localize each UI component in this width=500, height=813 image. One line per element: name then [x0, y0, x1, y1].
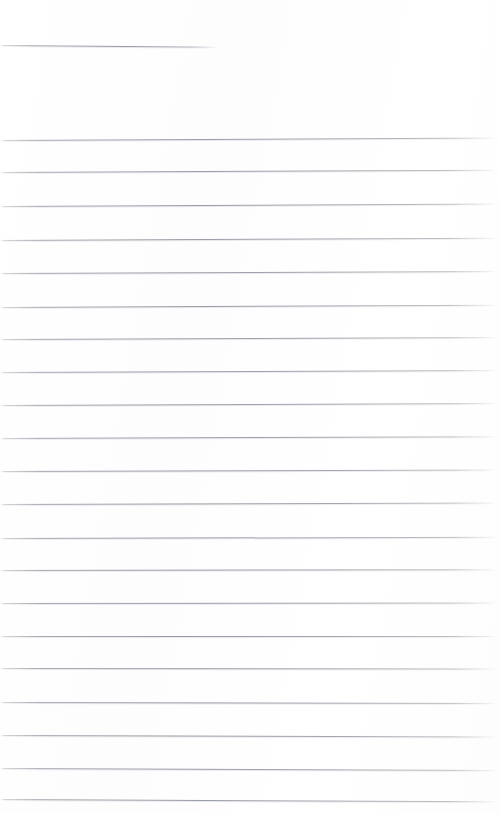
rule-10: [0, 436, 497, 439]
rule-13: [0, 537, 497, 539]
partial-rule-top: [0, 45, 220, 48]
rule-18: [0, 702, 497, 704]
rule-15: [0, 602, 497, 604]
rule-20: [0, 768, 497, 771]
scanned-page: [0, 0, 500, 813]
rule-7: [0, 337, 497, 340]
rule-17: [0, 668, 497, 670]
rule-9: [0, 403, 497, 406]
rule-6: [0, 305, 497, 308]
rule-11: [0, 469, 497, 472]
rule-4: [0, 238, 497, 241]
paper-texture: [0, 0, 500, 813]
rule-8: [0, 370, 497, 373]
rule-16: [0, 636, 497, 637]
rule-14: [0, 569, 497, 571]
rule-19: [0, 735, 497, 737]
rule-2: [0, 170, 497, 173]
rule-1: [0, 138, 497, 141]
rule-5: [0, 271, 497, 274]
rule-21: [0, 799, 497, 802]
rule-3: [0, 203, 497, 207]
rule-12: [0, 503, 497, 505]
